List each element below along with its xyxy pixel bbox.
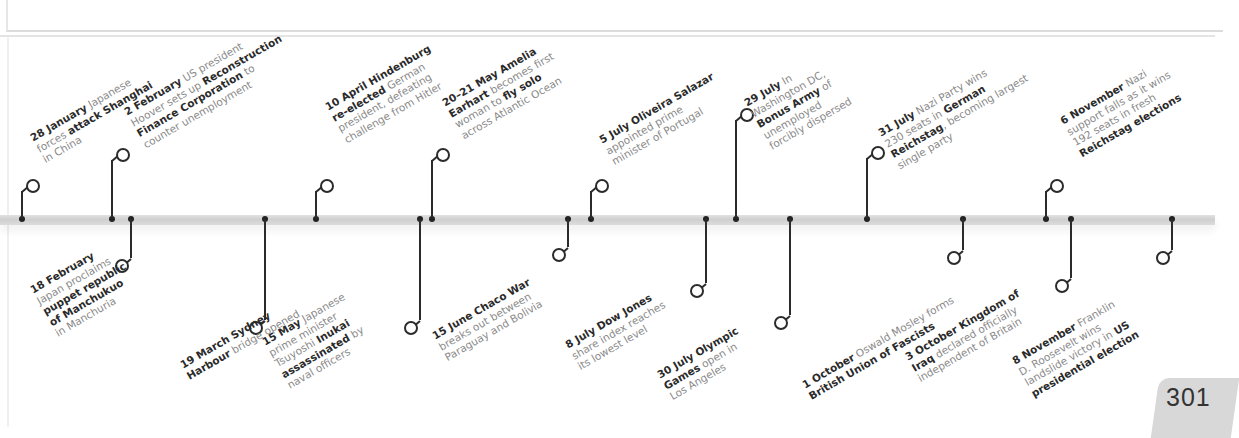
event-connector xyxy=(866,158,868,219)
event-connector xyxy=(264,219,266,320)
event-label: 18 FebruaryJapan proclaimspuppet republi… xyxy=(28,238,141,339)
event-marker-ring xyxy=(320,179,334,193)
event-connector xyxy=(315,191,317,219)
page-number: 301 xyxy=(1166,383,1211,412)
event-marker-ring xyxy=(1055,279,1069,293)
event-connector xyxy=(419,219,421,320)
event-label: 29 July InWashington DC,Bonus Army ofune… xyxy=(742,51,854,152)
event-connector xyxy=(1171,219,1173,250)
margin-guide xyxy=(7,37,9,427)
event-connector xyxy=(590,191,592,219)
event-marker-ring xyxy=(1156,251,1170,265)
event-marker-ring xyxy=(552,248,566,262)
event-marker-ring xyxy=(1050,179,1064,193)
event-connector xyxy=(567,219,569,247)
event-connector xyxy=(431,160,433,219)
event-label: 5 July Oliveira Salazarappointed primemi… xyxy=(597,70,728,167)
event-marker-ring xyxy=(871,146,885,160)
event-connector xyxy=(962,219,964,250)
event-label: 6 November Nazisupport falls as it wins1… xyxy=(1058,57,1185,159)
event-marker-ring xyxy=(774,316,788,330)
event-marker-ring xyxy=(436,148,450,162)
event-label: 10 April Hindenburgre-elected Germanpres… xyxy=(323,42,452,145)
event-label: 8 November FranklinD. Roosevelt winsland… xyxy=(1010,295,1141,399)
event-label: 31 July Nazi Party wins230 seats in Germ… xyxy=(876,50,1036,171)
previous-section-frame xyxy=(6,0,1223,32)
event-connector xyxy=(1070,219,1072,278)
event-label: 15 June Chaco Warbreaks out betweenParag… xyxy=(430,276,545,364)
event-label: 30 July OlympicGames open inLos Angeles xyxy=(655,324,753,402)
event-marker-ring xyxy=(690,284,704,298)
event-label: 8 July Dow Jonesshare index reachesits l… xyxy=(563,287,673,372)
event-marker-ring xyxy=(595,179,609,193)
event-label: 20–21 May AmeliaEarhart becomes firstwom… xyxy=(440,39,568,142)
event-connector xyxy=(21,191,23,219)
event-connector xyxy=(130,219,132,258)
timeline-bar xyxy=(0,215,1215,225)
event-connector xyxy=(111,160,113,219)
event-connector xyxy=(705,219,707,283)
event-marker-ring xyxy=(947,251,961,265)
event-connector xyxy=(789,219,791,315)
event-marker-ring xyxy=(116,148,130,162)
event-label-line: appointed prime xyxy=(603,81,722,157)
event-marker-ring xyxy=(404,321,418,335)
event-connector xyxy=(735,120,737,219)
event-connector xyxy=(1045,191,1047,219)
event-marker-ring xyxy=(26,179,40,193)
section-divider xyxy=(0,35,1215,37)
